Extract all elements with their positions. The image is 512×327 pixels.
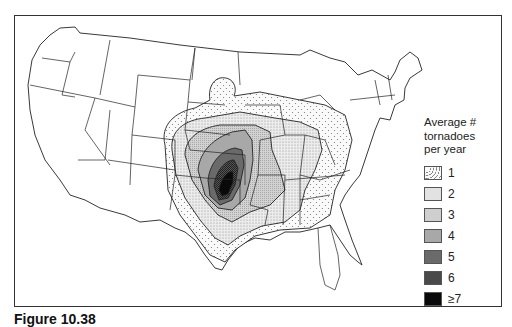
figure-caption: Figure 10.38 <box>14 311 96 327</box>
legend-label: 4 <box>448 229 455 243</box>
legend-label: 6 <box>448 271 455 285</box>
legend-item-7: ≥7 <box>424 289 502 310</box>
swatch-hatched-dark <box>424 271 442 285</box>
swatch-stipple-light <box>424 187 442 201</box>
legend-label: 2 <box>448 187 455 201</box>
legend-item-5: 5 <box>424 247 502 268</box>
legend-item-2: 2 <box>424 184 502 205</box>
legend-item-6: 6 <box>424 268 502 289</box>
legend-item-1: 1 <box>424 163 502 184</box>
legend-title-line: Average # <box>424 116 502 130</box>
swatch-dark-gray <box>424 250 442 264</box>
legend-label: 3 <box>448 208 455 222</box>
legend-item-3: 3 <box>424 205 502 226</box>
legend-title-line: tornadoes <box>424 130 502 144</box>
swatch-dotted-light <box>424 166 442 180</box>
legend-label: 5 <box>448 250 455 264</box>
legend-label: ≥7 <box>448 292 461 306</box>
legend-item-4: 4 <box>424 226 502 247</box>
swatch-gray <box>424 229 442 243</box>
legend: Average # tornadoes per year 1 2 3 4 5 6… <box>424 116 502 310</box>
swatch-black <box>424 292 442 306</box>
legend-title: Average # tornadoes per year <box>424 116 502 157</box>
swatch-stipple-medium <box>424 208 442 222</box>
legend-label: 1 <box>448 166 455 180</box>
legend-title-line: per year <box>424 143 502 157</box>
